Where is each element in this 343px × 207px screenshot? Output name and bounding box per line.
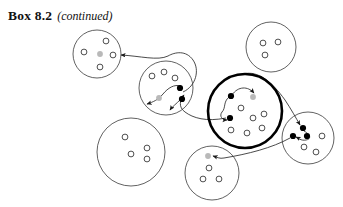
population-boundary (246, 22, 296, 72)
dot-gray (97, 51, 103, 57)
dot-filled (290, 133, 296, 139)
connector-c-upper-internal-1 (147, 85, 181, 104)
dot-open (238, 105, 244, 111)
population-network-diagram (0, 0, 343, 207)
dot-gray (250, 94, 256, 100)
connector-c-upper-internal-2 (170, 99, 181, 110)
dot-open (122, 134, 128, 140)
dot-filled (179, 96, 185, 102)
dot-open (216, 176, 222, 182)
dot-open (110, 52, 116, 58)
connector-c-upper-to-topleft (121, 53, 196, 92)
figure-root: Box 8.2(continued) (0, 0, 343, 207)
connector-c-focal-internal-1 (232, 88, 254, 95)
dot-open (319, 133, 325, 139)
dot-open (261, 111, 267, 117)
dot-open (313, 149, 319, 155)
dot-filled (177, 85, 183, 91)
dot-gray (156, 95, 162, 101)
dot-filled (304, 133, 310, 139)
dot-filled (300, 125, 306, 131)
dot-open (260, 40, 266, 46)
dot-open (301, 144, 307, 150)
dot-open (81, 49, 87, 55)
dot-open (262, 52, 268, 58)
population-top-left-population (73, 30, 121, 78)
population-boundary (185, 146, 239, 200)
dot-open (144, 145, 150, 151)
population-boundary (97, 118, 165, 186)
dot-filled (227, 115, 233, 121)
population-boundary (139, 61, 193, 115)
population-upper-middle-population (139, 61, 193, 115)
dot-open (275, 39, 281, 45)
population-bottom-left-population (97, 118, 165, 186)
connector-c-focal-to-upper (180, 95, 226, 120)
population-top-right-population (246, 22, 296, 72)
population-bottom-middle-population (185, 146, 239, 200)
dot-open (161, 69, 167, 75)
dot-open (259, 125, 265, 131)
dot-open (97, 64, 103, 70)
dot-gray (205, 153, 211, 159)
population-boundary (73, 30, 121, 78)
dot-open (250, 115, 256, 121)
dot-open (200, 176, 206, 182)
dot-open (228, 127, 234, 133)
population-layer (73, 22, 334, 200)
dot-open (103, 38, 109, 44)
dot-filled (228, 93, 234, 99)
population-focal-population-bold (208, 74, 282, 148)
dot-open (206, 165, 212, 171)
population-boundary-bold (208, 74, 282, 148)
dot-open (244, 130, 250, 136)
dot-open (149, 73, 155, 79)
dot-open (172, 75, 178, 81)
dot-open (144, 156, 150, 162)
dot-open (128, 151, 134, 157)
